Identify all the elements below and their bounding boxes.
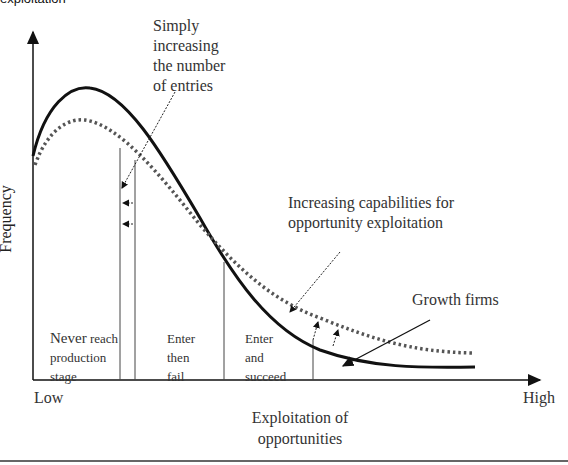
region-text: and: [245, 348, 286, 367]
x-axis-label: Exploitation of opportunities: [200, 407, 400, 449]
y-axis-label: Frequency: [0, 185, 15, 253]
annotation-simply-increasing: Simply increasing the number of entries: [153, 16, 225, 96]
x-axis-high-label: High: [523, 388, 555, 408]
small-up-arrow-1: [313, 322, 318, 340]
region-enter-then-fail: Enter then fail: [167, 329, 195, 386]
x-axis-label-line: opportunities: [200, 428, 400, 449]
diagram-canvas: [0, 0, 568, 465]
small-up-arrow-2: [333, 330, 338, 346]
annotation-line: increasing: [153, 36, 225, 56]
region-text: then: [167, 348, 195, 367]
region-text: production: [50, 348, 118, 367]
region-text: Enter: [167, 329, 195, 348]
region-text: reach: [87, 331, 118, 346]
region-text: succeed: [245, 367, 286, 386]
region-text: Enter: [245, 329, 286, 348]
capabilities-arrow: [290, 252, 340, 312]
dotted-distribution-curve: [35, 120, 473, 353]
region-text: stage: [50, 367, 118, 386]
entries-arrow: [122, 92, 175, 188]
x-axis-label-line: Exploitation of: [200, 407, 400, 428]
annotation-line: Increasing capabilities for: [288, 193, 454, 213]
annotation-capabilities: Increasing capabilities for opportunity …: [288, 193, 454, 233]
x-axis-low-label: Low: [34, 388, 63, 408]
annotation-growth-firms: Growth firms: [412, 290, 499, 310]
annotation-line: of entries: [153, 76, 225, 96]
growth-firms-arrow: [343, 320, 430, 366]
annotation-line: opportunity exploitation: [288, 213, 454, 233]
annotation-line: Simply: [153, 16, 225, 36]
region-text: Never: [50, 330, 87, 346]
annotation-line: the number: [153, 56, 225, 76]
region-never-reach: Never reach production stage: [50, 329, 118, 386]
bottom-rule: [0, 460, 568, 462]
region-enter-and-succeed: Enter and succeed: [245, 329, 286, 386]
region-text: fail: [167, 367, 195, 386]
